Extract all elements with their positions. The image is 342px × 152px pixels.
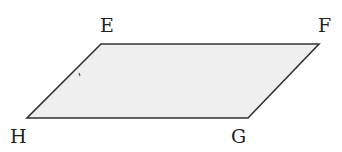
- vertex-label-h: H: [10, 125, 27, 147]
- vertex-label-f: F: [318, 14, 331, 36]
- vertex-label-e: E: [100, 14, 114, 36]
- parallelogram-diagram: E F G H: [0, 0, 342, 152]
- vertex-label-g: G: [231, 125, 246, 147]
- parallelogram-efgh: [27, 44, 319, 118]
